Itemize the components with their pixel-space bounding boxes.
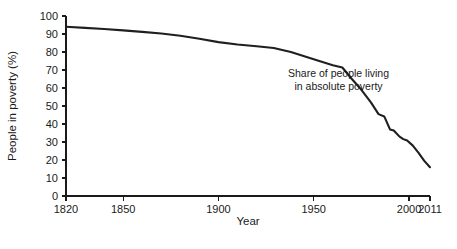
y-tick-label: 40 [46,118,58,130]
y-tick-label: 80 [46,46,58,58]
y-tick-label: 0 [52,190,58,202]
x-tick-label: 1850 [111,203,135,215]
poverty-share-line [66,27,430,167]
x-tick-label: 1950 [302,203,326,215]
y-tick-marks [62,16,66,196]
y-tick-labels: 0102030405060708090100 [40,10,58,202]
x-tick-label: 2011 [418,203,442,215]
x-axis-group: 182018501900195020002011 Year [54,196,442,227]
y-axis-group: 0102030405060708090100 People in poverty… [6,10,66,202]
y-tick-label: 30 [46,136,58,148]
chart-canvas: 0102030405060708090100 People in poverty… [0,0,457,249]
x-tick-label: 1900 [206,203,230,215]
chart-annotations: Share of people livingin absolute povert… [288,67,389,92]
y-tick-label: 60 [46,82,58,94]
data-series-group [66,27,430,167]
y-tick-label: 70 [46,64,58,76]
x-tick-label: 1820 [54,203,78,215]
series-annotation: Share of people living [288,67,389,79]
y-tick-label: 10 [46,172,58,184]
y-tick-label: 20 [46,154,58,166]
poverty-chart-figure: 0102030405060708090100 People in poverty… [0,0,457,249]
y-tick-label: 90 [46,28,58,40]
x-tick-labels: 182018501900195020002011 [54,203,442,215]
y-tick-label: 50 [46,100,58,112]
series-annotation: in absolute poverty [294,80,383,92]
y-axis-title: People in poverty (%) [6,51,18,161]
y-tick-label: 100 [40,10,58,22]
x-tick-marks [66,196,430,201]
x-axis-title: Year [236,215,259,227]
